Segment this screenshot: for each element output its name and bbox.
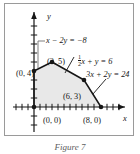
y-axis-arrow [31,12,37,19]
leader-line-eq2 [65,57,74,73]
vertex-label-2-5: (2, 5) [47,58,65,66]
figure-container: x − 2y = −8 1 2 x + y = 6 3x + 2y = 24 (… [0,0,140,154]
vertex-label-8-0: (8, 0) [83,117,101,125]
equation-label-1: x − 2y = −8 [46,37,87,45]
vertex-dot-8-0 [99,105,104,110]
leader-line-eq1 [38,41,45,68]
equation-label-3: 3x + 2y = 24 [86,71,129,79]
figure-caption: Figure 7 [0,141,140,154]
vertex-label-0-4: (0, 4) [16,70,34,78]
x-axis-label: x [123,114,127,123]
vertex-dot-0-0 [32,105,37,110]
leader-line-eq3 [93,79,106,94]
equation-label-2: 1 2 x + y = 6 [78,54,112,67]
vertex-label-0-0: (0, 0) [43,117,61,125]
vertex-label-6-3: (6, 3) [63,93,81,101]
y-axis-label: y [47,12,51,21]
plot-frame: x − 2y = −8 1 2 x + y = 6 3x + 2y = 24 (… [4,3,134,136]
